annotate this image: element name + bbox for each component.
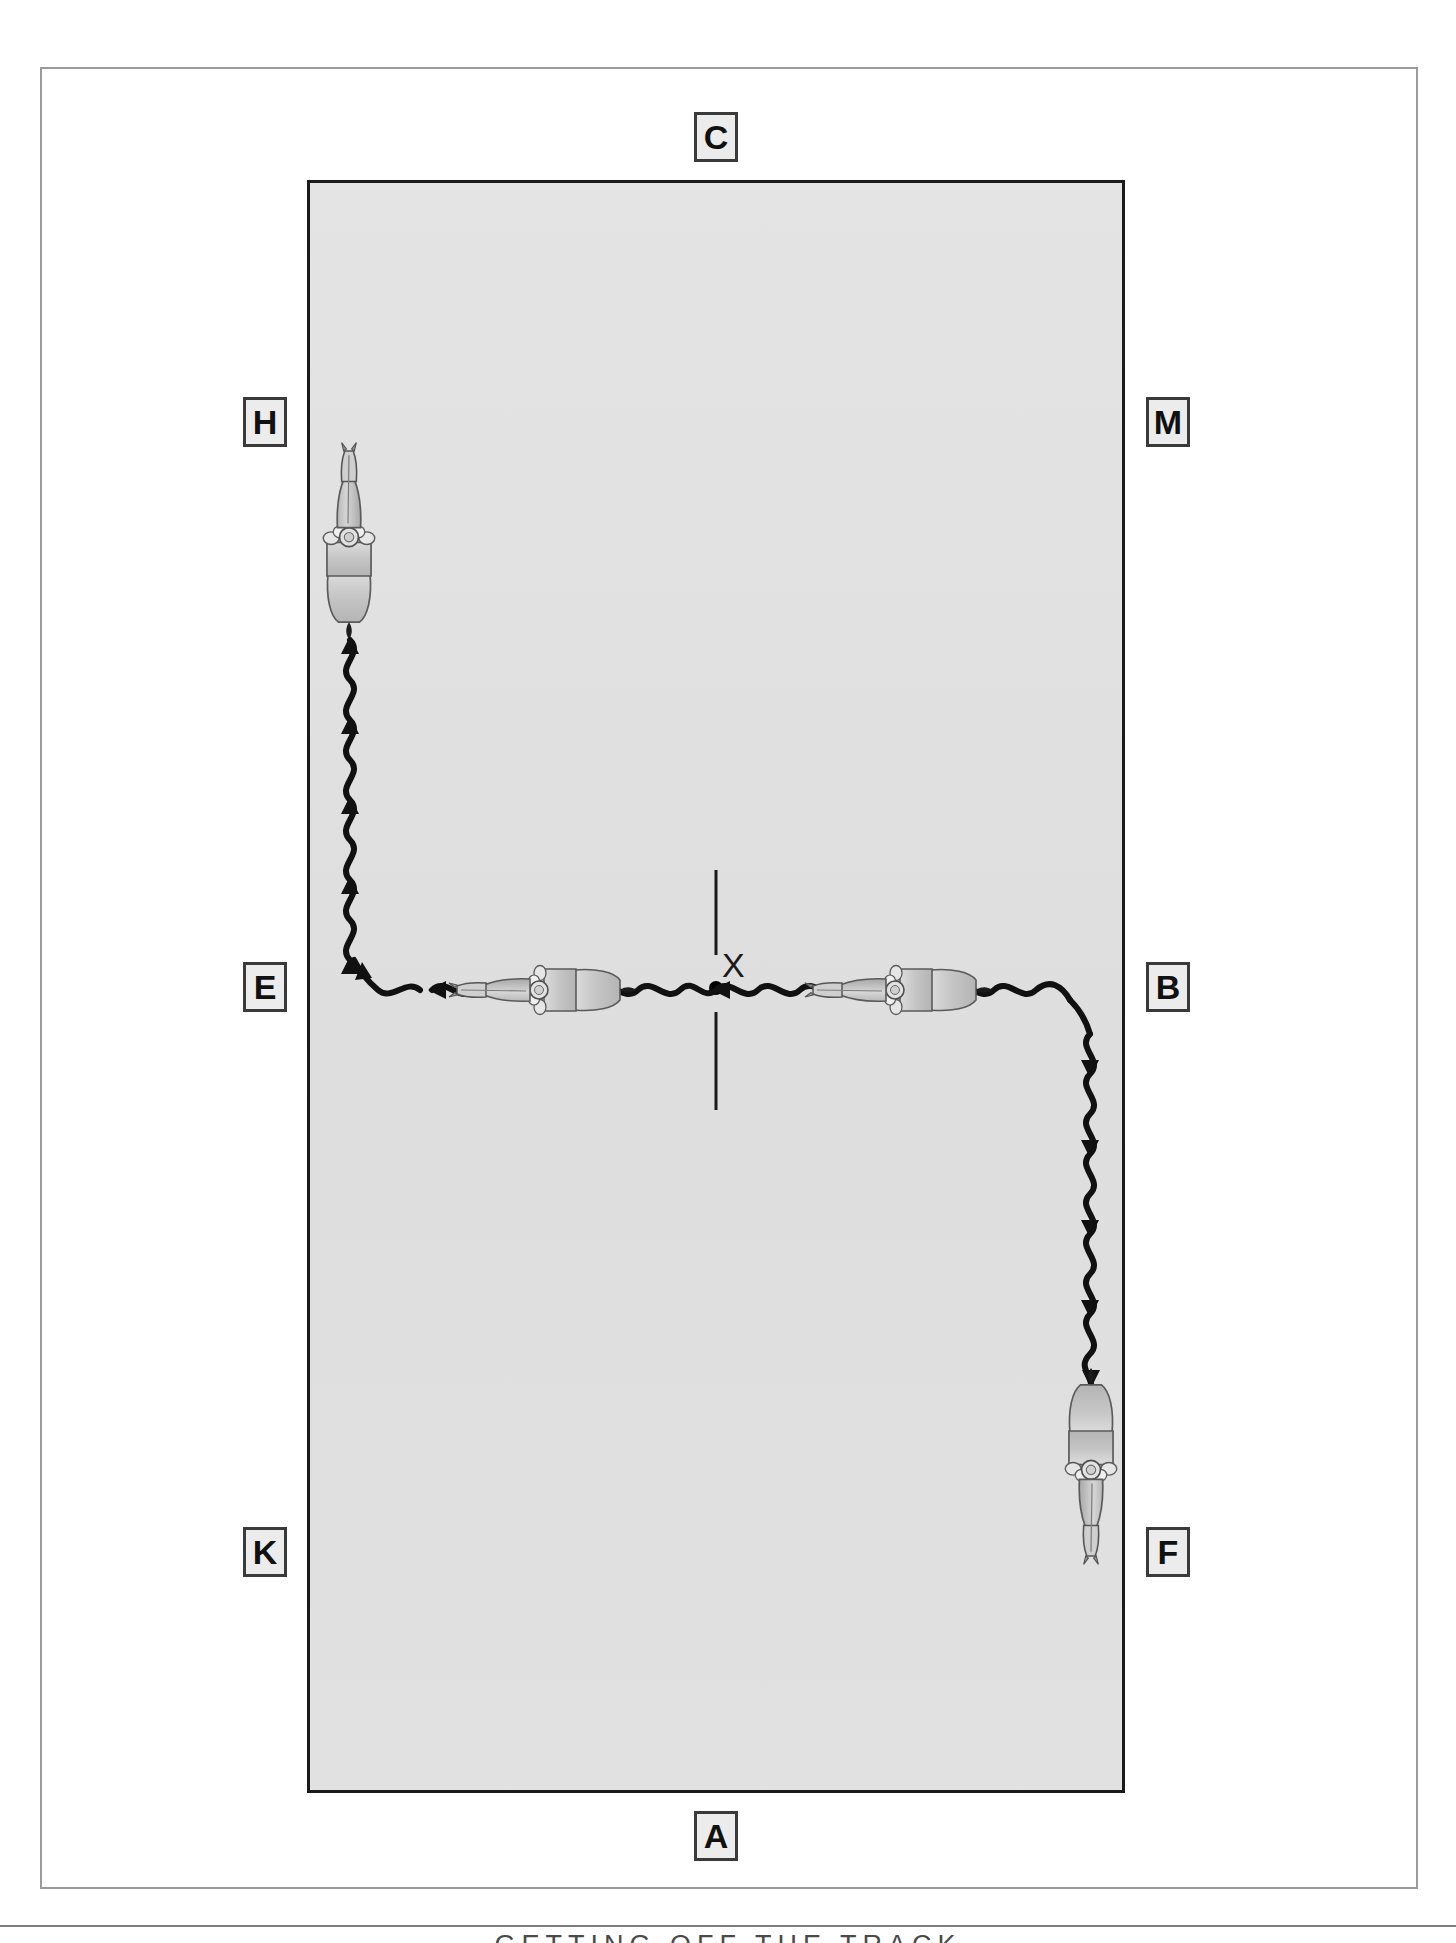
footer-caption: GETTING OFF THE TRACK: [0, 1928, 1456, 1943]
marker-label-k: K: [253, 1535, 278, 1569]
marker-label-f: F: [1158, 1535, 1179, 1569]
marker-label-e: E: [254, 970, 277, 1004]
marker-label-m: M: [1154, 405, 1182, 439]
dressage-arena: [307, 180, 1125, 1793]
centre-point-label: X: [722, 946, 745, 985]
marker-label-a: A: [704, 1819, 729, 1853]
marker-label-h: H: [253, 405, 278, 439]
arena-marker-k[interactable]: K: [243, 1527, 287, 1577]
arena-marker-b[interactable]: B: [1146, 962, 1190, 1012]
arena-marker-f[interactable]: F: [1146, 1527, 1190, 1577]
arena-marker-e[interactable]: E: [243, 962, 287, 1012]
marker-label-c: C: [704, 120, 729, 154]
arena-marker-h[interactable]: H: [243, 397, 287, 447]
arena-surface: [310, 183, 1122, 1790]
arena-marker-a[interactable]: A: [694, 1811, 738, 1861]
marker-label-b: B: [1156, 970, 1181, 1004]
arena-marker-m[interactable]: M: [1146, 397, 1190, 447]
page-sheet: C H M E B K F A X: [0, 0, 1456, 1943]
footer-divider: [0, 1925, 1456, 1927]
arena-marker-c[interactable]: C: [694, 112, 738, 162]
